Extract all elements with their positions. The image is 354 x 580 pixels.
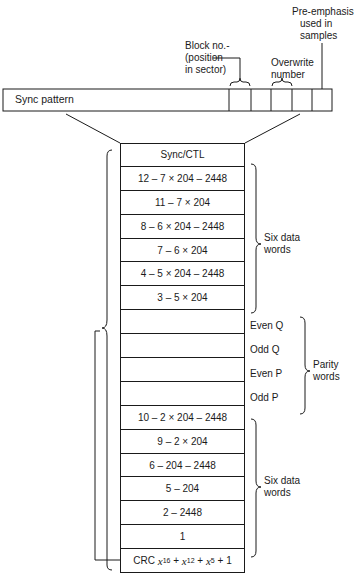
parity-label-odd-q: Odd Q [250,344,279,356]
data-word-row: 10 – 2 × 204 – 2448 [120,406,245,430]
group-label-line1: Parity [313,359,340,371]
data-word-row: 11 – 7 × 204 [120,191,245,215]
pre-emphasis-line2: used in [292,18,354,30]
block-structure-column: Sync/CTL 12 – 7 × 204 – 2448 11 – 7 × 20… [120,143,245,573]
parity-row [120,382,245,406]
data-word-row: 12 – 7 × 204 – 2448 [120,167,245,191]
sync-pattern-label: Sync pattern [15,93,74,105]
group-label-line1: Six data [264,475,300,487]
parity-words-label: Parity words [313,359,340,383]
block-number-label: Block no.- (position in sector) [185,40,229,76]
crc-x: x [158,555,163,567]
pre-emphasis-line3: samples [292,30,354,42]
overwrite-line2: number [271,69,314,81]
six-data-words-bottom-label: Six data words [264,475,300,499]
data-word-row: 7 – 6 × 204 [120,239,245,263]
block-number-line3: in sector) [185,64,229,76]
crc-suffix: + 1 [218,555,232,566]
data-word-row: 3 – 5 × 204 [120,286,245,310]
group-label-line2: words [313,371,340,383]
overwrite-number-label: Overwrite number [271,57,314,81]
data-word-row: 2 – 2448 [120,501,245,525]
row-sync-ctl: Sync/CTL [120,143,245,167]
data-word-row: 5 – 204 [120,477,245,501]
parity-label-odd-p: Odd P [250,392,278,404]
data-word-row: 8 – 6 × 204 – 2448 [120,215,245,239]
pre-emphasis-label: Pre-emphasis used in samples [292,6,354,42]
group-label-line2: words [264,487,300,499]
row-crc: CRC x16 + x12 + x5 + 1 [120,549,245,573]
data-word-row: 4 – 5 × 204 – 2448 [120,262,245,286]
group-label-line1: Six data [264,232,300,244]
data-word-row: 9 – 2 × 204 [120,430,245,454]
pre-emphasis-line1: Pre-emphasis [292,6,354,18]
six-data-words-top-label: Six data words [264,232,300,256]
parity-row [120,358,245,382]
parity-label-even-p: Even P [250,368,282,380]
parity-row [120,310,245,334]
crc-x: x [182,555,187,567]
data-word-row: 1 [120,525,245,549]
group-label-line2: words [264,244,300,256]
overwrite-line1: Overwrite [271,57,314,69]
parity-row [120,334,245,358]
parity-label-even-q: Even Q [250,320,283,332]
block-number-line1: Block no.- [185,40,229,52]
crc-prefix: CRC [133,555,155,566]
block-number-line2: (position [185,52,229,64]
data-word-row: 6 – 204 – 2448 [120,454,245,478]
